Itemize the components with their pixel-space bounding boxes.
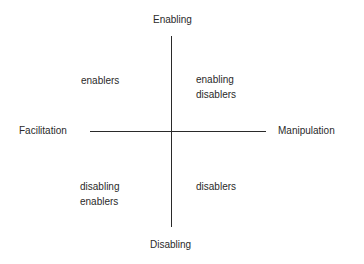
quadrant-text: disabling: [80, 180, 119, 195]
quadrant-bottom-left: disabling enablers: [80, 180, 119, 209]
quadrant-text: disablers: [196, 180, 236, 195]
horizontal-axis-line: [90, 131, 266, 132]
axis-label-left: Facilitation: [19, 124, 67, 138]
quadrant-bottom-right: disablers: [196, 180, 236, 195]
quadrant-text: enablers: [80, 195, 119, 210]
quadrant-top-left: enablers: [81, 74, 119, 89]
axis-label-bottom: Disabling: [150, 238, 191, 252]
quadrant-top-right: enabling disablers: [196, 73, 236, 102]
axis-label-right: Manipulation: [278, 124, 335, 138]
quadrant-text: enabling: [196, 73, 236, 88]
quadrant-text: enablers: [81, 74, 119, 89]
axis-label-top: Enabling: [153, 13, 192, 27]
quadrant-text: disablers: [196, 88, 236, 103]
